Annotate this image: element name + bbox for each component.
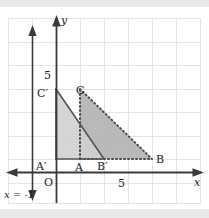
bottom-border-band	[0, 209, 209, 218]
point-label-B: B	[156, 154, 164, 165]
point-label-C-prime: C′	[37, 88, 48, 99]
x-tick-label-5: 5	[118, 178, 125, 189]
plot-area: y x 5 5 O C′ C A′ A B′ B x = -1	[0, 7, 209, 209]
figure-svg	[0, 7, 209, 209]
y-axis-label: y	[61, 15, 67, 26]
point-label-C: C	[76, 85, 84, 96]
point-label-B-prime: B′	[97, 161, 108, 172]
grid-lines	[8, 18, 201, 203]
point-label-A: A	[75, 162, 83, 173]
x-axis-label: x	[194, 177, 200, 188]
top-border-band	[0, 0, 209, 7]
geometry-figure: y x 5 5 O C′ C A′ A B′ B x = -1	[0, 0, 209, 218]
point-label-A-prime: A′	[36, 161, 46, 172]
y-tick-label-5: 5	[44, 70, 51, 81]
origin-label: O	[44, 177, 53, 188]
mirror-line-label: x = -1	[4, 190, 34, 200]
